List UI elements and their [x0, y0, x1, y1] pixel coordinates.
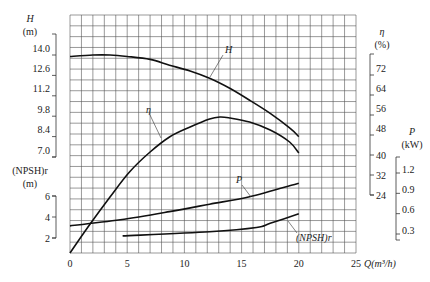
curve-labels: HηP(NPSH)r [146, 44, 332, 244]
curve-label-h: H [224, 44, 233, 55]
npsh-axis-unit: (m) [23, 178, 37, 190]
plot-grid [70, 15, 356, 253]
x-axis-title: Q(m³/h) [364, 258, 397, 270]
h-axis-title: H [25, 13, 34, 24]
eta-tick-label: 64 [376, 83, 386, 94]
h-tick-label: 7.0 [38, 145, 51, 156]
x-tick-label: 15 [237, 258, 247, 269]
x-tick-label: 5 [125, 258, 130, 269]
eta-axis-title: η [380, 26, 385, 37]
curve-label-p: P [235, 174, 242, 185]
npsh-tick-label: 4 [45, 212, 50, 223]
x-tick-label: 20 [294, 258, 304, 269]
curve-label-eta: η [146, 104, 151, 115]
p-axis-unit: (kW) [401, 139, 422, 151]
x-tick-label: 0 [68, 258, 73, 269]
p-axis-line [396, 157, 400, 240]
h-tick-label: 8.4 [38, 124, 51, 135]
p-tick-label: 0.6 [402, 204, 415, 215]
h-tick-label: 14.0 [33, 43, 51, 54]
h-tick-label: 11.2 [33, 83, 50, 94]
p-tick-label: 1.2 [402, 164, 415, 175]
h-axis-unit: (m) [23, 26, 37, 38]
leader-line [242, 185, 251, 197]
pump-performance-chart: 0510152025Q(m³/h)14.012.611.29.88.47.064… [0, 0, 430, 282]
eta-axis-unit: (%) [375, 39, 390, 51]
eta-tick-label: 40 [376, 150, 386, 161]
h-tick-label: 9.8 [38, 104, 51, 115]
eta-tick-label: 56 [376, 103, 386, 114]
p-axis-title: P [408, 126, 415, 137]
npsh-tick-label: 2 [45, 233, 50, 244]
leader-line [150, 115, 161, 138]
eta-tick-label: 72 [376, 63, 386, 74]
h-tick-label: 12.6 [33, 63, 51, 74]
eta-tick-label: 48 [376, 123, 386, 134]
eta-tick-label: 32 [376, 170, 386, 181]
x-tick-label: 25 [351, 258, 361, 269]
curve-npsh [123, 214, 299, 236]
curve-label-npsh: (NPSH)r [296, 232, 332, 244]
x-tick-label: 10 [179, 258, 189, 269]
p-tick-label: 0.9 [402, 184, 415, 195]
npsh-axis-title: (NPSH)r [12, 165, 48, 177]
eta-tick-label: 24 [376, 190, 386, 201]
npsh-tick-label: 6 [45, 191, 50, 202]
p-tick-label: 0.3 [402, 225, 415, 236]
